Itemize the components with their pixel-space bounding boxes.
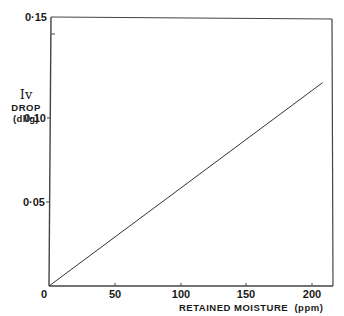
right-border [332, 19, 333, 286]
x-tick-label-200: 200 [303, 288, 321, 300]
y-axis-title-drop: DROP [11, 102, 41, 113]
y-axis-title-unit: (dl/g) [13, 113, 39, 124]
top-border [51, 17, 332, 19]
origin-label: 0 [41, 288, 47, 300]
y-axis-title: Iv DROP (dl/g) [11, 87, 41, 124]
x-axis-title: RETAINED MOISTURE (ppm) [179, 302, 323, 313]
y-tick-label-015: 0·15 [25, 11, 47, 23]
x-tick-label-100: 100 [172, 288, 190, 300]
x-tick-label-50: 50 [109, 288, 121, 300]
y-axis [49, 17, 51, 286]
y-tick-label-005: 0·05 [23, 196, 45, 208]
plot-frame [49, 17, 333, 286]
x-tick-label-150: 150 [237, 288, 255, 300]
y-axis-title-iv: Iv [20, 87, 33, 102]
data-line [49, 83, 323, 286]
chart: 0·15 0·10 0·05 0 50 100 150 200 RETAINED… [0, 0, 344, 316]
